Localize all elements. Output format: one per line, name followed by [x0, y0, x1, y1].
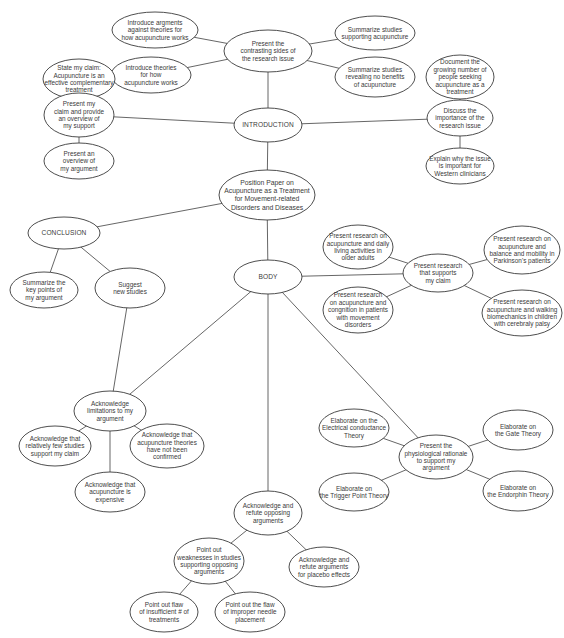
node-label-line: Discuss the: [443, 107, 476, 114]
node-label-line: Summarize the: [23, 279, 66, 286]
node-contrasting-sides: Present thecontrasting sides ofthe resea…: [224, 30, 312, 72]
node-label-line: disorders: [345, 321, 371, 328]
node-label-line: BODY: [258, 273, 278, 280]
node-label-line: Present the: [252, 40, 285, 47]
node-studies-no-benefits: Summarize studiesrevealing no benefitsof…: [335, 57, 415, 97]
node-label-line: for how: [141, 71, 162, 78]
node-label-line: supporting acupuncture: [342, 33, 409, 41]
node-ack-theories-not-confirmed: Acknowledge thatacupuncture theorieshave…: [130, 424, 204, 468]
node-label-line: confirmed: [153, 453, 182, 460]
node-label-line: Present research on: [329, 232, 387, 239]
node-label-line: Document the: [440, 58, 480, 65]
node-discuss-importance: Discuss theimportance of theresearch iss…: [427, 100, 493, 136]
node-endorphin-theory: Elaborate onthe Endorphin Theory: [483, 471, 553, 511]
node-label-line: Summarize studies: [348, 26, 402, 33]
node-label-line: Theory: [344, 432, 365, 440]
node-research-walking: Present research onacupuncture and walki…: [482, 290, 562, 336]
node-label-line: Present research on: [493, 298, 551, 305]
node-label-line: Present research: [334, 291, 383, 298]
node-label: Acknowledge thatrelatively few studiessu…: [26, 435, 85, 458]
concept-map: Position Paper onAcupuncture as a Treatm…: [0, 0, 564, 638]
node-label-line: overview of: [63, 157, 96, 164]
node-label-line: Elaborate on the: [331, 417, 378, 424]
node-root: Position Paper onAcupuncture as a Treatm…: [219, 170, 315, 220]
node-label-line: treatment: [447, 88, 474, 95]
node-label-line: arguments: [194, 568, 224, 576]
node-research-daily-living: Present research onacupuncture and daily…: [323, 225, 393, 269]
node-label-line: support my claim: [31, 450, 79, 458]
node-label-line: Point out: [196, 546, 221, 553]
node-acknowledge-limitations: Acknowledgelimitations to myargument: [74, 391, 146, 431]
node-label-line: weaknesses in studies: [176, 554, 241, 561]
node-weaknesses-opposing: Point outweaknesses in studiessupporting…: [174, 538, 244, 584]
node-label-line: acupuncture works: [124, 79, 178, 87]
node-flaw-needle: Point out the flawof improper needleplac…: [215, 592, 285, 632]
node-args-against-theories: Introduce argmentsagainst theories forho…: [112, 12, 198, 48]
node-flaw-insufficient: Point out flawof insufficient # oftreatm…: [130, 592, 198, 632]
node-label: Summarize thekey points ofmy argument: [23, 279, 66, 302]
node-label-line: treatments: [149, 616, 179, 623]
node-body: BODY: [234, 260, 302, 294]
node-label-line: an overview of: [58, 115, 99, 122]
node-label-line: the Trigger Point Theory: [320, 492, 389, 500]
node-label-line: the research issue: [242, 55, 295, 62]
node-label-line: Acupuncture as a Treatment: [224, 187, 309, 195]
node-gate-theory: Elaborate onthe Gate Theory: [483, 410, 553, 450]
node-conclusion: CONCLUSION: [28, 217, 100, 249]
node-label-line: treatment: [66, 86, 93, 93]
node-label-line: Elaborate on: [336, 485, 373, 492]
node-label: BODY: [258, 273, 278, 280]
node-label: Summarize studiessupporting acupuncture: [342, 26, 409, 41]
node-label-line: have not been: [147, 446, 188, 453]
node-trigger-point-theory: Elaborate onthe Trigger Point Theory: [319, 473, 389, 511]
node-electrical-theory: Elaborate on theElectrical conductanceTh…: [319, 409, 389, 447]
node-present-claim-overview: Present myclaim and providean overview o…: [44, 93, 114, 137]
node-label-line: Present research on: [493, 235, 551, 242]
node-label-line: Elaborate on: [500, 423, 537, 430]
node-refute-placebo: Acknowledge andrefute argumentsfor place…: [289, 547, 359, 587]
node-ack-few-studies: Acknowledge thatrelatively few studiessu…: [19, 426, 91, 466]
node-physiological-rationale: Present thephysiological rationaleto sup…: [399, 435, 473, 479]
node-label: INTRODUCTION: [242, 121, 294, 128]
node-label: Introduce argmentsagainst theories forho…: [121, 19, 188, 42]
node-label: Summarize studiesrevealing no benefitsof…: [346, 66, 405, 89]
node-label-line: Point out the flaw: [225, 601, 274, 608]
node-label-line: older adults: [341, 254, 374, 261]
node-label-line: Disorders and Diseases: [231, 204, 304, 211]
node-label-line: for Movement-related: [235, 195, 300, 202]
node-refute-opposing: Acknowledge andrefute opposingarguments: [234, 491, 302, 535]
node-introduction: INTRODUCTION: [234, 108, 302, 142]
node-label-line: Elaborate on: [500, 484, 537, 491]
node-label-line: Present the: [420, 442, 453, 449]
node-label-line: my argument: [60, 165, 98, 173]
node-label-line: my argument: [25, 294, 63, 302]
node-label-line: with movement: [336, 314, 380, 321]
node-label-line: the Endorphin Theory: [487, 491, 549, 499]
node-label-line: INTRODUCTION: [242, 121, 294, 128]
node-label-line: Point out flaw: [145, 601, 184, 608]
node-explain-western: Explain why the issueis important forWes…: [426, 148, 494, 184]
node-research-cognition: Present researchon acupuncture andcongni…: [323, 287, 393, 333]
node-studies-supporting: Summarize studiessupporting acupuncture: [335, 16, 415, 50]
node-label-line: Electrical conductance: [322, 424, 386, 431]
node-label-line: Present research: [414, 262, 463, 269]
node-label-line: argument: [97, 415, 124, 423]
node-research-parkinsons: Present research onacupuncture andbalanc…: [484, 226, 560, 274]
node-label-line: argument: [423, 464, 450, 472]
node-label: Present anoverview ofmy argument: [60, 150, 98, 173]
node-research-supports-claim: Present researchthat supportsmy claim: [403, 254, 473, 292]
node-summarize-key-points: Summarize thekey points ofmy argument: [10, 272, 78, 308]
node-label-line: my support: [63, 122, 95, 130]
node-label-line: of acupuncture: [354, 81, 397, 89]
node-document-growing: Document thegrowing number ofpeople seek…: [426, 55, 494, 99]
node-label-line: with cerebraly palsy: [493, 320, 551, 328]
node-label-line: biomechanics in children: [487, 313, 557, 320]
node-label-line: Parkinson's patients: [494, 257, 551, 265]
node-label-line: Present an: [64, 150, 95, 157]
node-ack-expensive: Acknowledge thatacupuncture isexpensive: [75, 472, 145, 512]
node-label: Elaborate onthe Gate Theory: [495, 423, 542, 438]
node-label: Present research onacupuncture and walki…: [487, 298, 558, 328]
node-label-line: Introduce theories: [125, 64, 176, 71]
node-label-line: new studies: [113, 288, 147, 295]
node-label-line: Position Paper on: [240, 179, 294, 187]
